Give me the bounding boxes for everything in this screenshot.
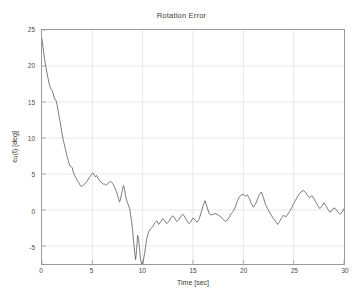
y-tick-label: -5 [29, 243, 35, 250]
x-tick-label: 10 [139, 267, 146, 274]
y-tick-label: 20 [28, 62, 35, 69]
x-axis-tick-labels: 051015202530 [41, 267, 345, 279]
y-tick-label: 5 [31, 171, 35, 178]
chart-title: Rotation Error [0, 11, 363, 20]
x-tick-label: 25 [291, 267, 298, 274]
x-tick-label: 15 [189, 267, 196, 274]
chart-figure: Rotation Error eR(t) [deg] 2520151050-5 … [0, 0, 363, 305]
y-tick-label: 0 [31, 207, 35, 214]
y-axis-tick-labels: 2520151050-5 [0, 29, 39, 265]
x-axis-label: Time [sec] [41, 279, 345, 286]
y-tick-label: 15 [28, 98, 35, 105]
x-tick-label: 20 [240, 267, 247, 274]
x-tick-label: 5 [90, 267, 94, 274]
x-tick-label: 30 [341, 267, 348, 274]
y-tick-label: 10 [28, 134, 35, 141]
y-tick-label: 25 [28, 26, 35, 33]
data-series-line [42, 30, 344, 264]
plot-area [41, 29, 345, 265]
x-tick-label: 0 [39, 267, 43, 274]
